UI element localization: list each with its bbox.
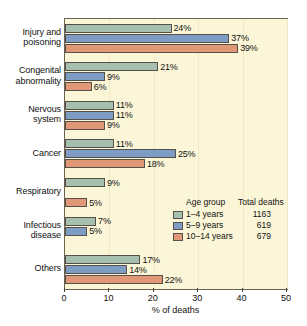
bar-value-label: 21%	[160, 62, 177, 71]
bar-group: 11%11%9%	[65, 96, 287, 135]
bar	[65, 217, 96, 226]
bar-value-label: 7%	[98, 217, 111, 226]
x-axis-tick	[64, 288, 65, 292]
bar-value-label: 11%	[116, 139, 133, 148]
bar-line: 6%	[65, 82, 287, 91]
bar	[65, 62, 158, 71]
category-label: Injury andpoisoning	[0, 27, 61, 48]
bar	[65, 44, 238, 53]
category-label-line: abnormality	[0, 76, 61, 87]
bar-line: 9%	[65, 121, 287, 130]
category-label-line: Nervous	[0, 104, 61, 115]
bar-line: 18%	[65, 159, 287, 168]
bar-value-label: 6%	[94, 82, 107, 91]
bar	[65, 227, 87, 236]
bar-group: 11%25%18%	[65, 135, 287, 174]
legend-item: 5–9 years619	[173, 220, 284, 231]
bar-line: 14%	[65, 265, 287, 274]
bar-value-label: 17%	[142, 255, 159, 264]
chart-figure: Injury andpoisoningCongenitalabnormality…	[0, 0, 307, 326]
category-label-line: Others	[0, 263, 61, 274]
bar-line: 24%	[65, 24, 287, 33]
bar-line: 11%	[65, 101, 287, 110]
x-axis-title: % of deaths	[64, 305, 287, 316]
plot-area: 24%37%39%21%9%6%11%11%9%11%25%18%9%5%7%5…	[64, 18, 288, 290]
bar-line: 39%	[65, 44, 287, 53]
legend-swatch-icon	[173, 233, 183, 241]
category-label-line: Respiratory	[0, 186, 61, 197]
legend-item: 10–14 years679	[173, 231, 284, 242]
bar-value-label: 18%	[147, 159, 164, 168]
category-label-line: Injury and	[0, 27, 61, 38]
bar	[65, 159, 145, 168]
legend-item-total-deaths: 1163	[238, 209, 271, 220]
bar-value-label: 37%	[231, 34, 248, 43]
bar-value-label: 22%	[165, 275, 182, 284]
bar-line: 21%	[65, 62, 287, 71]
bar	[65, 82, 92, 91]
legend-item-label: 1–4 years	[186, 209, 238, 220]
bar	[65, 34, 229, 43]
legend-swatch-icon	[173, 222, 183, 230]
category-label: Respiratory	[0, 186, 61, 197]
bar-group: 24%37%39%	[65, 19, 287, 58]
category-label: Cancer	[0, 148, 61, 159]
gridline	[287, 19, 288, 289]
x-axis-tick	[197, 288, 198, 292]
bar-line: 17%	[65, 255, 287, 264]
bar-value-label: 9%	[107, 121, 120, 130]
bar-value-label: 25%	[178, 149, 195, 158]
bar-value-label: 11%	[116, 111, 133, 120]
x-axis-tick-label: 30	[192, 293, 202, 303]
legend-item: 1–4 years1163	[173, 209, 284, 220]
bar-group: 17%14%22%	[65, 250, 287, 289]
x-axis-tick-label: 40	[237, 293, 247, 303]
bar-value-label: 9%	[107, 72, 120, 81]
legend-header-total-deaths: Total deaths	[238, 197, 284, 208]
legend-item-total-deaths: 619	[238, 220, 271, 231]
bar	[65, 149, 176, 158]
category-label: Nervoussystem	[0, 104, 61, 125]
bar-value-label: 5%	[89, 198, 102, 207]
x-axis: % of deaths 01020304050	[64, 288, 287, 326]
x-axis-tick-label: 10	[103, 293, 113, 303]
category-label-line: Congenital	[0, 65, 61, 76]
bar-value-label: 24%	[174, 24, 191, 33]
bar	[65, 101, 114, 110]
x-axis-tick	[108, 288, 109, 292]
legend-header-age-group: Age group	[186, 197, 238, 208]
bar	[65, 139, 114, 148]
bar	[65, 265, 127, 274]
legend-item-label: 10–14 years	[186, 231, 238, 242]
bar	[65, 72, 105, 81]
x-axis-tick-label: 0	[61, 293, 66, 303]
bar-line	[65, 188, 287, 197]
x-axis-tick-label: 50	[281, 293, 291, 303]
category-label-line: disease	[0, 230, 61, 241]
legend-item-label: 5–9 years	[186, 220, 238, 231]
bar-line: 25%	[65, 149, 287, 158]
bar-value-label: 5%	[89, 227, 102, 236]
category-label: Others	[0, 263, 61, 274]
category-label-line: Cancer	[0, 148, 61, 159]
x-axis-tick	[286, 288, 287, 292]
bar-value-label: 11%	[116, 101, 133, 110]
category-label-line: system	[0, 114, 61, 125]
bar-group: 21%9%6%	[65, 58, 287, 97]
bar	[65, 111, 114, 120]
bar	[65, 198, 87, 207]
legend-rows: 1–4 years11635–9 years61910–14 years679	[173, 209, 284, 242]
bar	[65, 178, 105, 187]
bar	[65, 24, 172, 33]
bar-line: 11%	[65, 139, 287, 148]
category-label-line: poisoning	[0, 37, 61, 48]
legend-header: Age group Total deaths	[173, 197, 284, 208]
bar-line: 11%	[65, 111, 287, 120]
x-axis-tick	[242, 288, 243, 292]
category-label-line: Infectious	[0, 220, 61, 231]
bar	[65, 121, 105, 130]
legend-swatch-icon	[173, 211, 183, 219]
bar-value-label: 39%	[240, 44, 257, 53]
bar-value-label: 9%	[107, 178, 120, 187]
legend-item-total-deaths: 679	[238, 231, 271, 242]
